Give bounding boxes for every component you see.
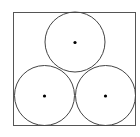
top-circle bbox=[45, 12, 105, 72]
center-dot bbox=[104, 94, 107, 97]
center-dot bbox=[43, 94, 46, 97]
bounding-square bbox=[14, 13, 136, 126]
bottom-right-circle bbox=[76, 66, 136, 126]
bottom-left-circle bbox=[15, 66, 75, 126]
center-dot bbox=[73, 41, 76, 44]
circles-in-square-diagram bbox=[0, 0, 140, 137]
